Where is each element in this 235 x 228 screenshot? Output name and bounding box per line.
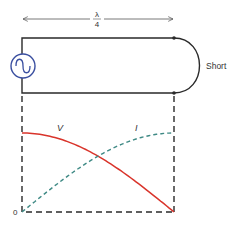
current-curve (22, 133, 174, 212)
short-termination (174, 38, 200, 93)
voltage-label: V (57, 123, 64, 133)
current-label: I (135, 123, 138, 133)
origin-label: 0 (13, 208, 18, 217)
top-conductor (22, 38, 174, 54)
ac-source-icon (11, 54, 35, 78)
length-label-denominator: 4 (95, 20, 100, 29)
voltage-curve (22, 133, 174, 212)
bottom-conductor (22, 78, 174, 93)
graph-frame (22, 96, 174, 212)
junction-dot-bottom (172, 91, 176, 95)
transmission-line (22, 38, 200, 93)
short-label: Short (206, 61, 227, 71)
quarter-wave-diagram: λ 4 Short V I 0 (0, 0, 235, 228)
length-label-numerator: λ (95, 10, 99, 19)
junction-dot-top (172, 36, 176, 40)
